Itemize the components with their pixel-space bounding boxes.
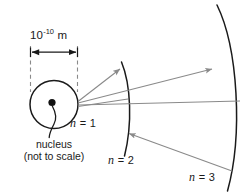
shell-n2-arc [122, 62, 130, 156]
equals-sign: = [80, 117, 87, 129]
nucleus-caption-line2: (not to scale) [6, 151, 102, 163]
n-symbol: n [108, 153, 114, 167]
ray-n1-to-n2-middle [78, 99, 128, 107]
bohr-atom-diagram: 10-10 m n = 1 n = 2 n = 3 nucleus (not t… [0, 0, 252, 195]
scale-bar-label: 10-10 m [30, 28, 67, 42]
nucleus-caption-line1: nucleus [6, 139, 102, 151]
nucleus-leader-line [49, 106, 56, 137]
shell-n3-arc [217, 5, 237, 191]
n-symbol: n [189, 170, 195, 184]
n1-value: 1 [90, 117, 96, 129]
scale-mantissa: 10 [30, 29, 43, 41]
nucleus-caption: nucleus (not to scale) [6, 139, 102, 163]
nucleus-dot [48, 99, 55, 106]
equals-sign: = [199, 171, 206, 183]
scale-exponent: -10 [43, 27, 54, 36]
label-shell-n3: n = 3 [189, 171, 215, 184]
n2-value: 2 [128, 154, 134, 166]
pointer-to-shell-n2 [129, 134, 232, 172]
label-shell-n2: n = 2 [108, 154, 134, 167]
scale-unit: m [57, 29, 67, 41]
n-symbol: n [70, 116, 76, 130]
label-shell-n1: n = 1 [70, 117, 96, 130]
ray-n1-to-n2-upper [78, 69, 120, 102]
equals-sign: = [118, 154, 125, 166]
n3-value: 3 [209, 171, 215, 183]
